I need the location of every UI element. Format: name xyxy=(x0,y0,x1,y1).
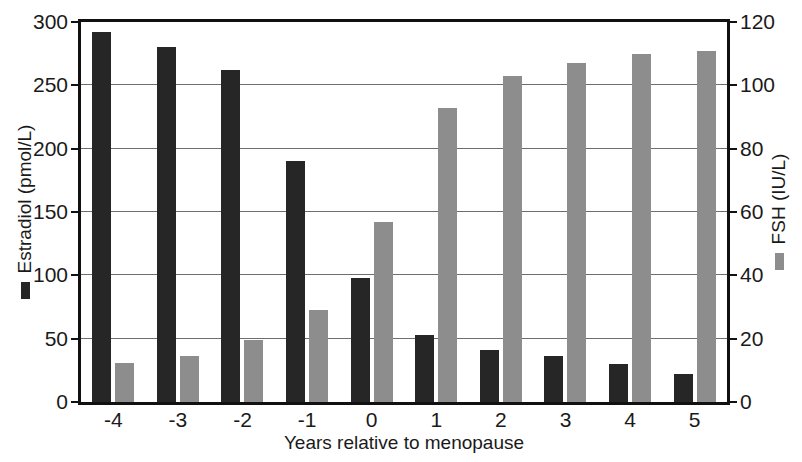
bar-estradiol xyxy=(351,278,370,402)
fsh-legend-swatch-icon xyxy=(775,253,784,270)
x-tick-label: 1 xyxy=(416,408,456,432)
left-tick-mark xyxy=(71,211,78,213)
left-tick-label: 0 xyxy=(56,391,68,412)
bar-group xyxy=(662,22,727,402)
x-tick-label: 2 xyxy=(481,408,521,432)
right-tick-label: 60 xyxy=(740,201,763,222)
right-tick-mark xyxy=(730,338,737,340)
bar-estradiol xyxy=(415,335,434,402)
left-tick-mark xyxy=(71,274,78,276)
bar-group xyxy=(598,22,663,402)
left-axis-title-wrapper: Estradiol (pmol/L) xyxy=(14,405,44,462)
bar-estradiol xyxy=(221,70,240,402)
bar-estradiol xyxy=(480,350,499,402)
right-tick-label: 120 xyxy=(740,11,775,32)
right-tick-label: 100 xyxy=(740,74,775,95)
x-tick-label: -2 xyxy=(223,408,263,432)
bar-fsh xyxy=(697,51,716,403)
bars-container xyxy=(81,22,727,402)
x-tick-label: 3 xyxy=(546,408,586,432)
right-tick-mark xyxy=(730,211,737,213)
right-tick-label: 0 xyxy=(740,391,752,412)
bar-group xyxy=(81,22,146,402)
bar-group xyxy=(469,22,534,402)
x-tick-label: 4 xyxy=(610,408,650,432)
bar-fsh xyxy=(632,54,651,402)
bar-group xyxy=(275,22,340,402)
bar-group xyxy=(146,22,211,402)
left-tick-label: 250 xyxy=(33,74,68,95)
right-tick-label: 20 xyxy=(740,328,763,349)
left-tick-mark xyxy=(71,84,78,86)
right-tick-mark xyxy=(730,148,737,150)
bar-fsh xyxy=(503,76,522,402)
bar-group xyxy=(533,22,598,402)
bar-fsh xyxy=(244,340,263,402)
bar-estradiol xyxy=(286,161,305,402)
bar-group xyxy=(210,22,275,402)
x-tick-label: -1 xyxy=(287,408,327,432)
bar-estradiol xyxy=(609,364,628,402)
right-tick-label: 80 xyxy=(740,138,763,159)
bar-fsh xyxy=(374,222,393,402)
right-tick-mark xyxy=(730,21,737,23)
plot-area xyxy=(78,19,730,405)
bar-fsh xyxy=(115,363,134,402)
x-axis-title: Years relative to menopause xyxy=(78,432,730,454)
x-tick-label: 0 xyxy=(352,408,392,432)
bar-group xyxy=(339,22,404,402)
right-axis-title-wrapper: FSH (IU/L) xyxy=(764,405,794,462)
left-tick-mark xyxy=(71,21,78,23)
left-tick-label: 100 xyxy=(33,264,68,285)
right-tick-mark xyxy=(730,84,737,86)
chart-figure: Estradiol (pmol/L) FSH (IU/L) 0501001502… xyxy=(0,0,802,462)
x-tick-label: -3 xyxy=(158,408,198,432)
left-tick-label: 200 xyxy=(33,138,68,159)
left-tick-label: 300 xyxy=(33,11,68,32)
right-tick-mark xyxy=(730,274,737,276)
x-tick-label: 5 xyxy=(675,408,715,432)
left-tick-mark xyxy=(71,338,78,340)
bar-fsh xyxy=(567,63,586,402)
left-tick-mark xyxy=(71,401,78,403)
right-axis-label-text: FSH (IU/L) xyxy=(768,154,790,245)
estradiol-legend-swatch-icon xyxy=(21,282,30,299)
bar-group xyxy=(404,22,469,402)
left-tick-mark xyxy=(71,148,78,150)
right-tick-mark xyxy=(730,401,737,403)
bar-estradiol xyxy=(674,374,693,402)
bar-estradiol xyxy=(157,47,176,402)
bar-fsh xyxy=(309,310,328,402)
right-tick-label: 40 xyxy=(740,264,763,285)
bar-fsh xyxy=(180,356,199,402)
bar-fsh xyxy=(438,108,457,403)
bar-estradiol xyxy=(92,32,111,402)
left-tick-label: 50 xyxy=(45,328,68,349)
x-tick-label: -4 xyxy=(93,408,133,432)
bar-estradiol xyxy=(544,356,563,402)
left-tick-label: 150 xyxy=(33,201,68,222)
